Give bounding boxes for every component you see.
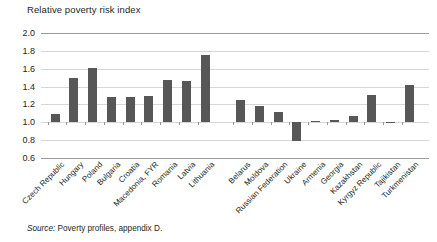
axis-tick [402, 122, 403, 125]
axis-tick [383, 122, 384, 125]
axis-tick [289, 122, 290, 125]
chart-page: Relative poverty risk index 2.01.81.61.4… [0, 0, 437, 242]
axis-tick [364, 122, 365, 125]
bar [367, 95, 376, 123]
bar [405, 85, 414, 123]
axis-tick [252, 122, 253, 125]
y-axis-tick-label: 0.6 [22, 154, 35, 163]
y-axis-tick-label: 1.0 [22, 118, 35, 127]
axis-tick [85, 122, 86, 125]
bar [107, 97, 116, 122]
axis-tick [346, 122, 347, 125]
axis-tick [327, 122, 328, 125]
bar [69, 78, 78, 123]
bar [201, 55, 210, 122]
axis-tick [104, 122, 105, 125]
axis-tick [308, 122, 309, 125]
axis-tick [123, 122, 124, 125]
y-axis-tick-label: 1.4 [22, 82, 35, 91]
axis-tick [66, 122, 67, 125]
axis-tick [48, 122, 49, 125]
y-axis-tick-label: 2.0 [22, 29, 35, 38]
axis-tick [198, 122, 199, 125]
axis-tick [233, 122, 234, 125]
plot-area [41, 33, 429, 158]
y-axis-labels: 2.01.81.61.41.21.00.80.6 [0, 33, 38, 158]
baseline-ticks [41, 122, 429, 125]
chart-axis-title: Relative poverty risk index [27, 4, 141, 15]
source-label: Source: [27, 224, 55, 233]
axis-tick [179, 122, 180, 125]
gridline [41, 51, 429, 52]
gridline [41, 158, 429, 159]
bar [255, 106, 264, 122]
bar [274, 112, 283, 122]
bar [88, 68, 97, 122]
bar [163, 80, 172, 122]
bar [126, 97, 135, 122]
gridline [41, 140, 429, 141]
source-note: Source: Poverty profiles, appendix D. [27, 224, 162, 233]
x-axis-labels: Czech RepublicHungaryPolandBulgariaCroat… [41, 160, 437, 222]
y-axis-tick-label: 0.8 [22, 136, 35, 145]
y-axis-tick-label: 1.6 [22, 64, 35, 73]
gridline [41, 69, 429, 70]
y-axis-tick-label: 1.8 [22, 46, 35, 55]
gridline [41, 87, 429, 88]
bar [144, 96, 153, 123]
axis-tick [141, 122, 142, 125]
axis-tick [271, 122, 272, 125]
bar [236, 100, 245, 122]
source-text: Poverty profiles, appendix D. [58, 224, 163, 233]
gridline [41, 33, 429, 34]
y-axis-tick-label: 1.2 [22, 100, 35, 109]
bar [51, 114, 60, 122]
axis-tick [160, 122, 161, 125]
bar [182, 81, 191, 122]
